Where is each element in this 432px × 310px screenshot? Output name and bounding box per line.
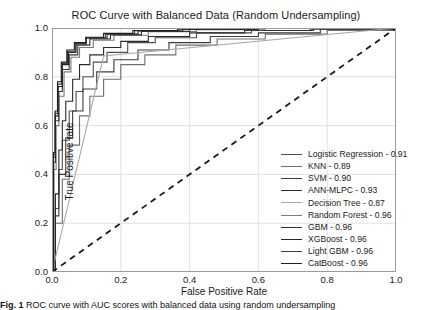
legend-item-label: Logistic Regression - 0.91	[308, 150, 407, 159]
legend-line-swatch-icon	[281, 251, 302, 252]
legend-item[interactable]: CatBoost - 0.96	[281, 258, 393, 270]
figure-caption-prefix: Fig. 1	[0, 300, 24, 310]
legend-line-swatch-icon	[281, 202, 302, 203]
legend-item[interactable]: Light GBM - 0.96	[281, 246, 393, 258]
legend-item[interactable]: XGBoost - 0.96	[281, 233, 393, 245]
x-tick-label: 0.6	[252, 275, 265, 285]
legend-line-swatch-icon	[281, 190, 302, 191]
legend-item-label: KNN - 0.89	[308, 162, 351, 171]
legend-item[interactable]: SVM - 0.90	[281, 172, 393, 184]
x-tick-label: 0.0	[45, 275, 58, 285]
legend-line-swatch-icon	[281, 166, 302, 167]
legend-item-label: Light GBM - 0.96	[308, 247, 373, 256]
legend-item-label: GBM - 0.96	[308, 223, 352, 232]
legend-item[interactable]: Logistic Regression - 0.91	[281, 148, 393, 160]
legend-line-swatch-icon	[281, 263, 302, 264]
legend-item-label: XGBoost - 0.96	[308, 235, 367, 244]
legend-line-swatch-icon	[281, 239, 302, 240]
legend-line-swatch-icon	[281, 227, 302, 228]
legend-line-swatch-icon	[281, 215, 302, 216]
x-tick-label: 0.8	[321, 275, 334, 285]
y-tick-label: 0.0	[8, 267, 48, 277]
legend-item-label: Random Forest - 0.96	[308, 211, 392, 220]
legend-item-label: SVM - 0.90	[308, 174, 351, 183]
legend-item[interactable]: ANN-MLPC - 0.93	[281, 185, 393, 197]
y-tick-label: 0.2	[8, 218, 48, 228]
legend-item-label: Decision Tree - 0.87	[308, 199, 385, 208]
legend-item[interactable]: KNN - 0.89	[281, 160, 393, 172]
x-tick-label: 0.4	[183, 275, 196, 285]
y-tick-label: 1.0	[8, 23, 48, 33]
legend-item[interactable]: Random Forest - 0.96	[281, 209, 393, 221]
legend-item-label: CatBoost - 0.96	[308, 259, 368, 268]
roc-curve-figure: ROC Curve with Balanced Data (Random Und…	[0, 0, 432, 310]
chart-title: ROC Curve with Balanced Data (Random Und…	[0, 9, 432, 21]
legend-item[interactable]: GBM - 0.96	[281, 221, 393, 233]
y-axis-label: True Positive rate	[64, 97, 75, 227]
y-tick-label: 0.4	[8, 169, 48, 179]
x-tick-label: 0.2	[114, 275, 127, 285]
x-tick-label: 1.0	[389, 275, 402, 285]
x-axis-label: False Positive Rate	[52, 286, 396, 297]
chart-legend: Logistic Regression - 0.91KNN - 0.89SVM …	[281, 148, 393, 270]
y-tick-label: 0.8	[8, 72, 48, 82]
y-axis-ticks: 0.00.20.40.60.81.0	[4, 28, 48, 272]
legend-item[interactable]: Decision Tree - 0.87	[281, 197, 393, 209]
figure-caption: Fig. 1 ROC curve with AUC scores with ba…	[0, 300, 432, 310]
figure-caption-text: ROC curve with AUC scores with balanced …	[26, 300, 335, 310]
legend-line-swatch-icon	[281, 178, 302, 179]
y-tick-label: 0.6	[8, 121, 48, 131]
legend-item-label: ANN-MLPC - 0.93	[308, 186, 377, 195]
legend-line-swatch-icon	[281, 154, 302, 155]
